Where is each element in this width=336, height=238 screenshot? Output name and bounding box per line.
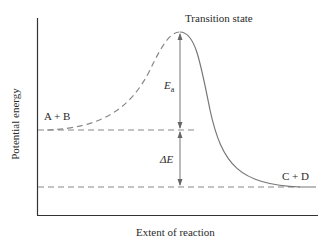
y-axis-label: Potential energy <box>9 79 21 169</box>
reactants-label: A + B <box>44 110 70 122</box>
x-axis-label: Extent of reaction <box>136 226 215 238</box>
energy-change-label: ΔE <box>160 153 173 165</box>
products-label: C + D <box>282 170 309 182</box>
activation-energy-label: Ea <box>164 79 174 94</box>
transition-state-label: Transition state <box>185 12 253 24</box>
reaction-curve-falling <box>180 32 316 187</box>
